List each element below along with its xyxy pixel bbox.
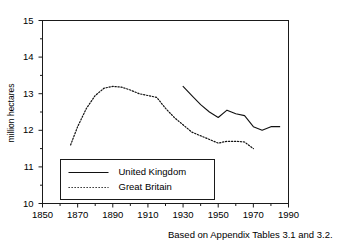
x-tick-label: 1850: [26, 210, 60, 220]
series-layer: [71, 86, 280, 148]
series-line-united-kingdom: [183, 86, 280, 130]
x-tick-label: 1950: [201, 210, 235, 220]
x-tick-label: 1970: [236, 210, 270, 220]
y-tick-label: 11: [12, 162, 34, 172]
y-tick-label: 12: [12, 125, 34, 135]
legend-label-great-britain: Great Britain: [119, 182, 172, 192]
y-tick-label: 15: [12, 16, 34, 26]
y-axis-label: million hectares: [6, 58, 16, 168]
y-tick-label: 13: [12, 89, 34, 99]
x-tick-label: 1870: [61, 210, 95, 220]
y-tick-label: 10: [12, 199, 34, 209]
x-tick-label: 1910: [131, 210, 165, 220]
y-tick-label: 14: [12, 52, 34, 62]
x-tick-label: 1930: [166, 210, 200, 220]
legend-label-united-kingdom: United Kingdom: [119, 167, 187, 177]
chart-figure: million hectares 101112131415 1850187018…: [0, 0, 349, 248]
source-caption: Based on Appendix Tables 3.1 and 3.2.: [168, 229, 333, 240]
x-tick-label: 1890: [96, 210, 130, 220]
series-line-great-britain: [71, 86, 254, 148]
x-tick-label: 1990: [272, 210, 306, 220]
